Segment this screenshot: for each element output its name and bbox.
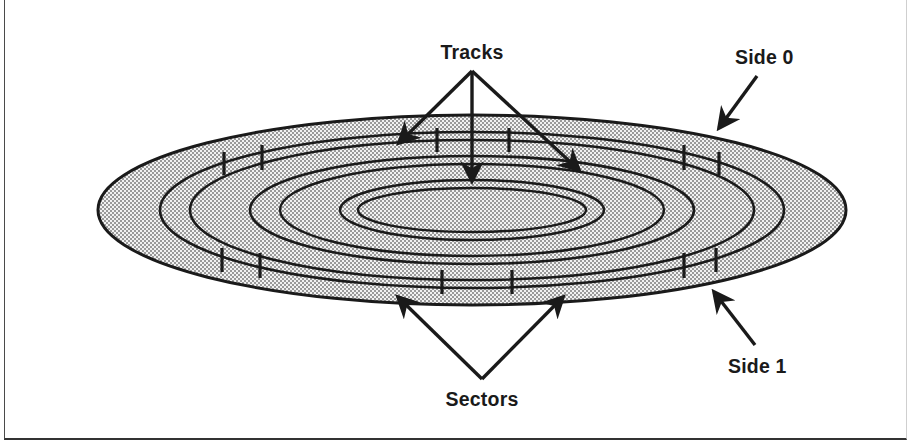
side-0-callout-group bbox=[719, 76, 757, 128]
tracks-label: Tracks bbox=[440, 41, 503, 63]
sectors-callout-group bbox=[398, 297, 563, 379]
sectors-arrow-left bbox=[398, 297, 482, 379]
sectors-label: Sectors bbox=[446, 388, 519, 410]
side-0-arrow bbox=[719, 76, 757, 128]
track-ring-4-outer-ellipse bbox=[358, 188, 586, 232]
figure-root: Tracks Sectors Side 0 Side 1 bbox=[0, 0, 911, 447]
side-1-arrow bbox=[714, 292, 755, 345]
side-0-label: Side 0 bbox=[735, 46, 794, 68]
sectors-arrow-right bbox=[482, 297, 563, 379]
side-1-label: Side 1 bbox=[728, 355, 787, 377]
disk-diagram-svg: Tracks Sectors Side 0 Side 1 bbox=[0, 0, 911, 447]
side-1-callout-group bbox=[714, 292, 755, 345]
